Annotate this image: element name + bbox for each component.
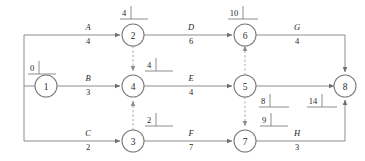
node-5[interactable]: 5 bbox=[234, 75, 256, 97]
event-time-marker-node-2: 4 bbox=[120, 6, 148, 19]
edge-A-duration: 4 bbox=[86, 36, 91, 46]
event-time-marker-node-1: 0 bbox=[28, 61, 56, 74]
event-time-value-node-3: 2 bbox=[147, 115, 151, 125]
edge-E-name: E bbox=[187, 73, 194, 83]
node-5-label: 5 bbox=[243, 82, 248, 92]
event-time-marker-node-6: 10 bbox=[228, 6, 258, 19]
edge-D-duration: 6 bbox=[189, 36, 193, 46]
event-time-value-node-8: 14 bbox=[309, 96, 318, 106]
edge-label-H: H 3 bbox=[293, 128, 301, 152]
edge-label-group: A 4 B 3 C 2 D 6 E 4 F 7 bbox=[84, 22, 301, 152]
edge-C-name: C bbox=[85, 128, 91, 138]
node-6[interactable]: 6 bbox=[234, 24, 256, 46]
edge-E-duration: 4 bbox=[189, 87, 194, 97]
edge-F-name: F bbox=[187, 128, 194, 138]
event-time-value-node-4: 4 bbox=[147, 60, 152, 70]
edge-F-duration: 7 bbox=[189, 142, 193, 152]
event-time-marker-node-7: 9 bbox=[260, 113, 288, 126]
node-3-label: 3 bbox=[131, 137, 136, 147]
event-time-marker-node-5: 8 bbox=[259, 94, 289, 107]
edge-H-duration: 3 bbox=[295, 142, 299, 152]
edge-C-duration: 2 bbox=[86, 142, 90, 152]
event-time-marker-node-3: 2 bbox=[145, 113, 173, 126]
node-7-label: 7 bbox=[243, 137, 248, 147]
node-8-label: 8 bbox=[343, 82, 348, 92]
event-time-marker-node-4: 4 bbox=[145, 58, 173, 71]
edge-label-F: F 7 bbox=[187, 128, 194, 152]
edge-label-C: C 2 bbox=[85, 128, 91, 152]
edge-B-duration: 3 bbox=[86, 87, 90, 97]
edge-G-path bbox=[256, 35, 345, 72]
edge-group-into-node-8 bbox=[256, 35, 345, 141]
node-2[interactable]: 2 bbox=[122, 24, 144, 46]
node-8[interactable]: 8 bbox=[334, 75, 356, 97]
edge-label-D: D 6 bbox=[187, 22, 195, 46]
event-time-value-node-2: 4 bbox=[122, 8, 127, 18]
edge-label-G: G 4 bbox=[294, 22, 300, 46]
edge-H-name: H bbox=[293, 128, 301, 138]
event-time-value-node-7: 9 bbox=[262, 115, 266, 125]
network-diagram-canvas: 0 4 4 2 10 bbox=[0, 0, 365, 161]
node-7[interactable]: 7 bbox=[234, 130, 256, 152]
edge-label-B: B 3 bbox=[85, 73, 90, 97]
event-time-value-node-6: 10 bbox=[230, 8, 239, 18]
node-6-label: 6 bbox=[243, 31, 248, 41]
node-1[interactable]: 1 bbox=[35, 75, 57, 97]
edge-D-name: D bbox=[187, 22, 195, 32]
edge-B-name: B bbox=[85, 73, 90, 83]
edge-label-A: A 4 bbox=[84, 22, 91, 46]
edge-G-name: G bbox=[294, 22, 300, 32]
node-1-label: 1 bbox=[44, 82, 49, 92]
node-4-label: 4 bbox=[131, 82, 136, 92]
node-2-label: 2 bbox=[131, 31, 136, 41]
event-time-value-node-1: 0 bbox=[30, 63, 34, 73]
edge-A-name: A bbox=[84, 22, 91, 32]
event-time-marker-node-8: 14 bbox=[307, 94, 337, 107]
event-time-value-node-5: 8 bbox=[261, 96, 265, 106]
event-time-marker-group: 0 4 4 2 10 bbox=[28, 6, 337, 126]
edge-label-E: E 4 bbox=[187, 73, 194, 97]
node-group: 1 2 3 4 5 6 7 bbox=[35, 24, 356, 152]
edge-H-path bbox=[256, 100, 345, 141]
edge-G-duration: 4 bbox=[295, 36, 300, 46]
node-4[interactable]: 4 bbox=[122, 75, 144, 97]
node-3[interactable]: 3 bbox=[122, 130, 144, 152]
network-diagram-svg: 0 4 4 2 10 bbox=[0, 0, 365, 161]
